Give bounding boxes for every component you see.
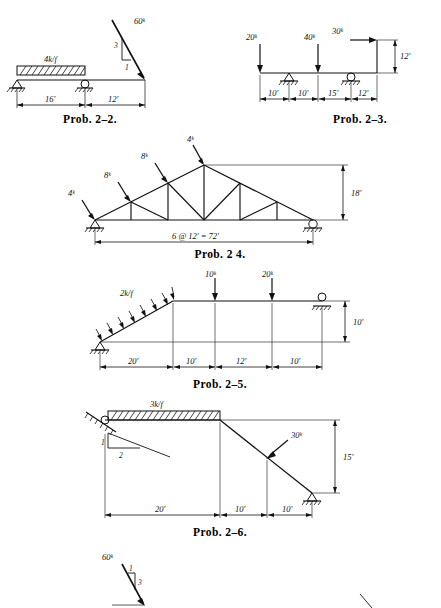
prob-2-4-load-1: 4ᵏ (68, 188, 75, 198)
prob-2-3-load-2: 40ᵏ (304, 32, 316, 42)
caption-prob-2-6: Prob. 2–6. (160, 526, 280, 538)
figure-prob-2-2: 4k/f 60ᵏ 3 1 16' 12' (0, 8, 220, 108)
prob-2-4-dim-height: 18' (351, 188, 362, 198)
prob-2-4-load-3: 8ᵏ (141, 151, 148, 161)
prob-2-6-dim-b: 10' (235, 504, 246, 514)
prob-2-5-dim-c: 12' (236, 356, 247, 366)
prob-2-6-dim-height: 15' (343, 452, 354, 462)
caption-prob-2-4: Prob. 2 4. (160, 248, 280, 260)
prob-2-2-slope-run: 1 (125, 63, 129, 72)
caption-prob-2-3: Prob. 2–3. (300, 113, 420, 125)
prob-2-6-dim-a: 20' (155, 504, 166, 514)
figure-prob-2-7-partial: 60ᵏ 1 3 (60, 548, 390, 608)
caption-prob-2-2: Prob. 2–2. (30, 113, 150, 125)
prob-2-2-slope-rise: 3 (113, 41, 118, 50)
prob-2-3-load-3: 30ᵏ (331, 26, 344, 36)
prob-2-7-slope-rise: 1 (129, 564, 133, 573)
prob-2-4-load-4: 4ᵏ (187, 134, 194, 144)
prob-2-3-dim-b: 10' (298, 88, 309, 98)
prob-2-6-load-label: 30ᵏ (290, 430, 303, 440)
prob-2-3-dim-a: 10' (268, 88, 279, 98)
figure-prob-2-3: 20ᵏ 40ᵏ 30ᵏ 12' 10' 10' 15' 12' (240, 18, 430, 108)
prob-2-5-dim-height: 10' (353, 317, 364, 327)
prob-2-5-load-2: 20ᵏ (262, 269, 274, 279)
prob-2-6-dim-c: 10' (282, 504, 293, 514)
prob-2-3-dim-c: 15' (328, 88, 339, 98)
prob-2-6-slope-rise: 1 (101, 438, 105, 447)
prob-2-5-dim-b: 10' (186, 356, 197, 366)
prob-2-5-load-1: 10ᵏ (205, 269, 217, 279)
prob-2-2-dim-left: 16' (45, 94, 56, 104)
figure-prob-2-6: 3k/f 1 2 30ᵏ 15' 20' 10' 10' (60, 398, 390, 523)
prob-2-3-dim-height: 12' (400, 51, 411, 61)
prob-2-3-load-1: 20ᵏ (246, 32, 258, 42)
prob-2-2-udl-label: 4k/f (44, 54, 58, 64)
prob-2-5-dim-a: 20' (128, 356, 139, 366)
prob-2-2-load-label: 60ᵏ (134, 16, 146, 26)
caption-prob-2-5: Prob. 2–5. (160, 378, 280, 390)
figure-prob-2-4: 4ᵏ 8ᵏ 8ᵏ 4ᵏ 18' 6 @ 12' = 72' (60, 132, 390, 247)
prob-2-7-load-label: 60ᵏ (102, 552, 114, 562)
prob-2-2-dim-right: 12' (108, 94, 119, 104)
prob-2-5-dim-d: 10' (290, 356, 301, 366)
prob-2-6-slope-run: 2 (119, 451, 123, 460)
prob-2-6-udl-label: 3k/f (149, 399, 164, 409)
prob-2-4-load-2: 8ᵏ (104, 170, 111, 180)
figure-prob-2-5: 2k/f 10ᵏ 20ᵏ 10' 20' 10' 12' 10' (60, 272, 390, 377)
prob-2-4-dim-span: 6 @ 12' = 72' (172, 231, 219, 241)
prob-2-5-udl-label: 2k/f (120, 288, 134, 298)
prob-2-7-slope-run: 3 (137, 578, 142, 587)
prob-2-3-dim-d: 12' (358, 88, 369, 98)
